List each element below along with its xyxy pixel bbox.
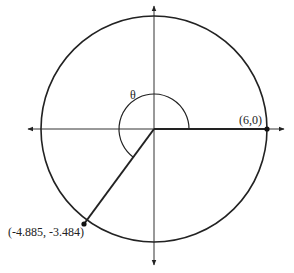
- point-terminal-label: (-4.885, -3.484): [8, 225, 84, 239]
- angle-diagram: θ (6,0) (-4.885, -3.484): [0, 0, 294, 273]
- terminal-side: [84, 129, 154, 224]
- point-initial-label: (6,0): [239, 113, 262, 127]
- angle-label: θ: [130, 88, 136, 102]
- point-initial: [264, 126, 269, 131]
